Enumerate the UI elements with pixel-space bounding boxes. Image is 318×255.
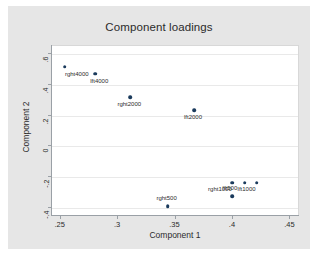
y-tick-mark (48, 207, 51, 208)
data-point-label: rght500 (156, 195, 176, 201)
data-point-marker (255, 181, 259, 185)
y-tick-mark (48, 145, 51, 146)
data-point-label: lft4000 (90, 78, 108, 84)
data-point-marker (63, 65, 67, 69)
x-tick-mark (117, 216, 118, 219)
screenshot-root: Component loadings rght4000lft4000rght20… (0, 0, 318, 255)
data-point-label: lft2000 (184, 114, 202, 120)
y-tick-label: .4 (43, 87, 50, 93)
plot-area: rght4000lft4000rght2000lft2000rght1000lf… (51, 45, 299, 216)
gridline-y-3 (51, 146, 298, 147)
x-tick-label: .3 (114, 220, 120, 229)
data-point-label: lft500 (223, 185, 238, 191)
data-point-marker (230, 195, 234, 199)
y-tick-mark (48, 53, 51, 54)
stata-graph-region: Component loadings rght4000lft4000rght20… (8, 6, 310, 249)
x-tick-mark (289, 216, 290, 219)
gridline-y-1 (51, 85, 298, 86)
data-point-marker (128, 96, 132, 100)
data-point-marker (93, 72, 97, 76)
x-tick-label: .4 (229, 220, 235, 229)
x-tick-label: .45 (284, 220, 294, 229)
data-point-label: lft1000 (238, 186, 256, 192)
gridline-y-0 (51, 54, 298, 55)
gridline-y-4 (51, 177, 298, 178)
data-point-marker (166, 204, 170, 208)
y-tick-mark (48, 84, 51, 85)
x-tick-mark (175, 216, 176, 219)
data-point-label: rght4000 (65, 71, 89, 77)
y-axis-title: Component 2 (21, 72, 31, 182)
y-tick-label: -.2 (43, 180, 50, 188)
y-tick-mark (48, 176, 51, 177)
y-tick-mark (48, 115, 51, 116)
gridline-y-5 (51, 208, 298, 209)
data-point-label: rght2000 (117, 101, 141, 107)
x-axis-title: Component 1 (51, 230, 299, 240)
gridline-y-2 (51, 116, 298, 117)
chart-title: Component loadings (8, 21, 310, 33)
y-tick-label: -.4 (43, 211, 50, 219)
y-tick-label: .2 (43, 118, 50, 124)
y-tick-label: 0 (43, 149, 50, 153)
x-tick-label: .25 (54, 220, 64, 229)
y-tick-label: .6 (43, 56, 50, 62)
data-point-marker (192, 109, 196, 113)
x-tick-label: .35 (169, 220, 179, 229)
data-point-marker (230, 181, 234, 185)
x-tick-mark (60, 216, 61, 219)
x-tick-mark (232, 216, 233, 219)
y-axis-line (51, 45, 52, 216)
data-point-marker (243, 181, 247, 185)
